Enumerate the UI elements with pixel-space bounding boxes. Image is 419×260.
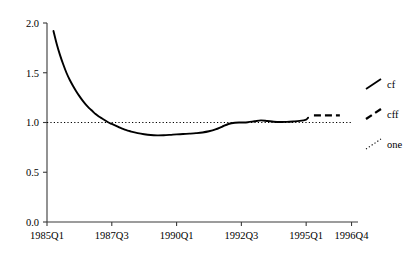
y-tick-label: 0.0: [26, 217, 39, 228]
chart-container: 0.00.51.01.52.0 1985Q11987Q31990Q11992Q3…: [0, 0, 419, 260]
series-line-cf: [53, 31, 308, 135]
legend-label-cf: cf: [387, 79, 396, 90]
legend-label-one: one: [387, 139, 403, 150]
legend-marker-one: [366, 139, 381, 149]
x-tick-label: 1995Q1: [289, 230, 323, 241]
x-tick-label: 1992Q3: [224, 230, 258, 241]
y-tick-label: 2.0: [26, 18, 39, 29]
y-tick-label: 0.5: [26, 167, 39, 178]
data-series-group: [47, 31, 352, 135]
y-tick-label: 1.0: [26, 117, 39, 128]
y-tick-label: 1.5: [26, 68, 39, 79]
x-tick-label: 1985Q1: [30, 230, 64, 241]
line-chart: 0.00.51.01.52.0 1985Q11987Q31990Q11992Q3…: [0, 0, 419, 260]
axes-spines: [47, 23, 358, 222]
x-tick-label: 1990Q1: [160, 230, 194, 241]
chart-legend: cfcffone: [366, 79, 403, 150]
x-axis-ticks: 1985Q11987Q31990Q11992Q31995Q11996Q4: [30, 222, 369, 241]
legend-label-cff: cff: [387, 109, 399, 120]
legend-marker-cff: [366, 109, 381, 119]
y-axis-ticks: 0.00.51.01.52.0: [26, 18, 47, 228]
x-tick-label: 1987Q3: [95, 230, 129, 241]
x-tick-label: 1996Q4: [335, 230, 370, 241]
legend-marker-cf: [366, 79, 381, 89]
